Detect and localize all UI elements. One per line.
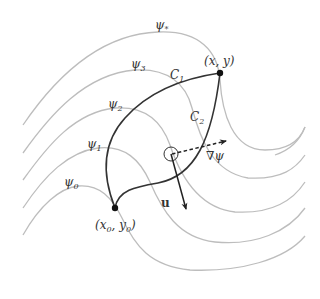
label-psistar: ψ* xyxy=(155,18,168,34)
label-end-point: (x, y) xyxy=(204,54,235,68)
velocity-arrow-icon xyxy=(171,154,186,209)
level-curve-psi3 xyxy=(23,70,305,178)
label-c1: C1 xyxy=(170,68,184,84)
label-start-point: (x0, y0) xyxy=(95,218,136,234)
diagram-svg: ψ0 ψ1 ψ2 ψ3 ψ* C1 C2 (x, y) (x0, y0) ∇ψ … xyxy=(0,0,320,299)
label-velocity: u xyxy=(161,196,170,210)
start-point-marker xyxy=(112,205,118,211)
label-psi1: ψ1 xyxy=(87,137,102,153)
label-psi2: ψ2 xyxy=(108,97,123,113)
label-psi3: ψ3 xyxy=(131,57,146,73)
level-set-diagram: ψ0 ψ1 ψ2 ψ3 ψ* C1 C2 (x, y) (x0, y0) ∇ψ … xyxy=(0,0,320,299)
label-c2: C2 xyxy=(190,110,204,126)
path-c2 xyxy=(115,73,220,208)
label-psi0: ψ0 xyxy=(64,175,79,191)
label-gradient: ∇ψ xyxy=(206,149,224,163)
end-point-marker xyxy=(217,70,223,76)
level-curve-psistar-tail xyxy=(275,127,305,155)
